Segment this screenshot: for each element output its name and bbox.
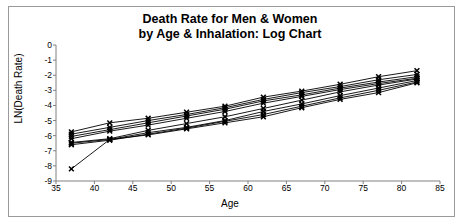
series-line xyxy=(71,79,417,142)
series-line xyxy=(71,81,417,144)
series-group xyxy=(69,68,419,171)
chart-container: Death Rate for Men & Women by Age & Inha… xyxy=(0,0,463,223)
series-line xyxy=(71,71,417,132)
series-line xyxy=(71,83,417,169)
data-point-marker xyxy=(69,167,74,172)
series-line xyxy=(71,74,417,134)
plot-area xyxy=(0,0,463,223)
